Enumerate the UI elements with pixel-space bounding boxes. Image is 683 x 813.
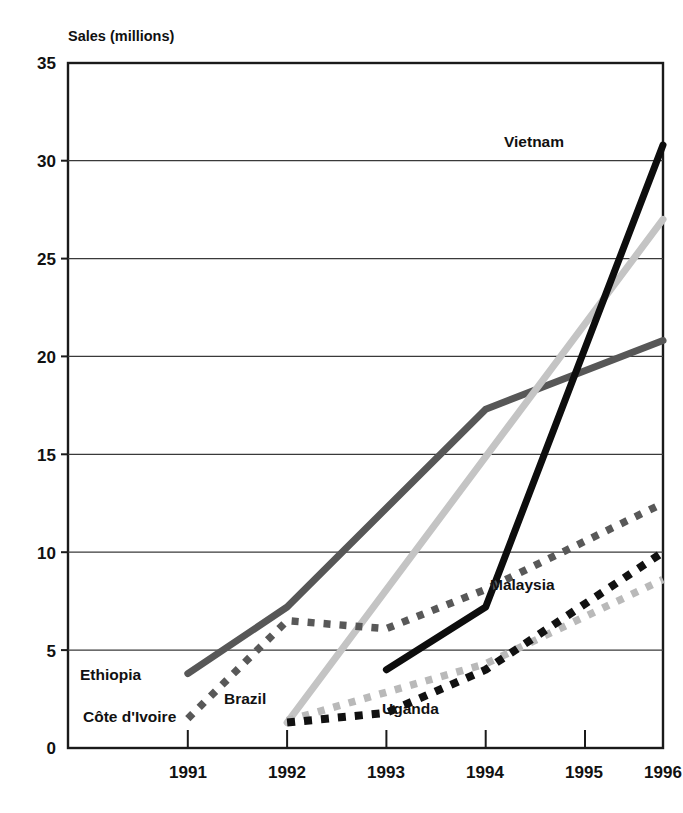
series-label-uganda: Uganda [382,700,439,718]
x-axis-ticks [188,730,585,748]
series-label-malaysia: Malaysia [490,576,555,594]
series-label-ethiopia: Ethiopia [80,666,141,684]
series-line-ethiopia [188,341,663,674]
chart-figure: Sales (millions) 35 30 25 20 15 10 5 0 1… [0,0,683,813]
gridlines [68,161,663,650]
series-line-uganda [287,552,663,722]
series-label-brazil: Brazil [224,690,266,708]
plot-frame [68,63,663,748]
series-label-cote-divoire: Côte d'Ivoire [83,708,176,726]
series-label-vietnam: Vietnam [504,133,564,151]
plot-area [0,0,683,813]
